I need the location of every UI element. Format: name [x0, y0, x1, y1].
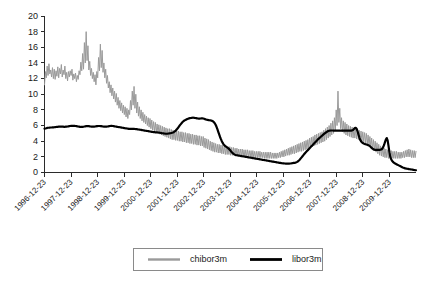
y-tick-label: 8	[33, 105, 38, 115]
legend-label-libor3m: libor3m	[292, 254, 322, 264]
legend: chibor3m libor3m	[134, 249, 323, 271]
y-tick-label: 2	[33, 152, 38, 162]
x-axis-tick-marks	[45, 173, 390, 177]
y-tick-label: 6	[33, 120, 38, 130]
line-chart: 02468101214161820 1996-12-231997-12-2319…	[0, 0, 428, 288]
y-tick-label: 10	[28, 89, 38, 99]
y-axis-tick-labels: 02468101214161820	[28, 11, 38, 178]
y-tick-label: 18	[28, 27, 38, 37]
series-libor3m	[45, 118, 417, 171]
y-axis-tick-marks	[41, 16, 45, 173]
y-tick-label: 12	[28, 73, 38, 83]
x-axis-tick-labels: 1996-12-231997-12-231998-12-231999-12-23…	[13, 177, 394, 213]
y-tick-label: 0	[33, 167, 38, 177]
y-tick-label: 20	[28, 11, 38, 21]
y-tick-label: 14	[28, 58, 38, 68]
y-tick-label: 16	[28, 42, 38, 52]
legend-label-chibor3m: chibor3m	[190, 254, 227, 264]
y-tick-label: 4	[33, 136, 38, 146]
chart-container: 02468101214161820 1996-12-231997-12-2319…	[0, 0, 428, 288]
